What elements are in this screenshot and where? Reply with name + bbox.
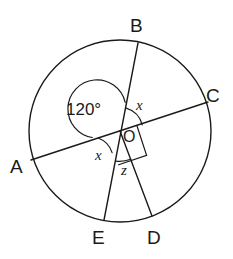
angle-label-z: z	[121, 163, 127, 178]
geometry-canvas	[0, 0, 233, 259]
vertex-label-c: C	[206, 86, 220, 105]
vertex-label-b: B	[130, 16, 143, 35]
vertex-label-e: E	[92, 228, 105, 247]
angle-label-120: 120°	[66, 101, 101, 118]
geometry-figure: A B C D E O 120° x x z	[0, 0, 233, 259]
angle-label-x-lower: x	[95, 148, 102, 163]
angle-label-x-upper: x	[136, 98, 143, 113]
center-label-o: O	[123, 129, 135, 145]
vertex-label-d: D	[147, 228, 161, 247]
vertex-label-a: A	[10, 157, 23, 176]
